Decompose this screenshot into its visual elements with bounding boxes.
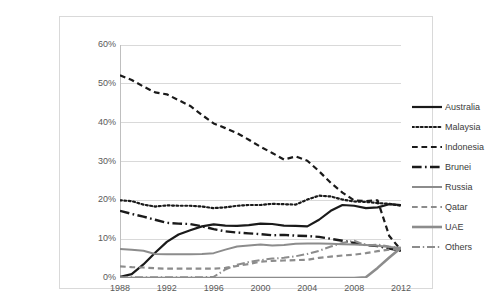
x-axis-tick-labels: 1988199219962000200420082012 <box>120 283 401 297</box>
legend-item-qatar[interactable]: Qatar <box>412 197 489 217</box>
y-axis-tick-label: 60% <box>86 40 116 49</box>
x-axis-tick-label: 2008 <box>336 283 372 294</box>
series-line-uae <box>120 248 401 278</box>
x-axis-tick-label: 2004 <box>289 283 325 294</box>
legend-swatch-brunei-icon <box>412 161 442 173</box>
legend-label: UAE <box>445 222 464 232</box>
legend-label: Russia <box>445 182 473 192</box>
legend-label: Brunei <box>445 162 471 172</box>
x-axis-tick-label: 1988 <box>102 283 138 294</box>
x-axis-tick-label: 1996 <box>196 283 232 294</box>
legend-item-malaysia[interactable]: Malaysia <box>412 117 489 137</box>
y-axis-tick-label: 40% <box>86 118 116 127</box>
y-axis-tick-label: 0% <box>86 273 116 282</box>
legend-item-australia[interactable]: Australia <box>412 97 489 117</box>
y-axis-tick-labels: 0%10%20%30%40%50%60% <box>82 45 116 278</box>
legend-swatch-malaysia-icon <box>412 121 442 133</box>
legend-label: Qatar <box>445 202 468 212</box>
legend-swatch-others-icon <box>412 241 442 253</box>
y-axis-tick-label: 20% <box>86 195 116 204</box>
series-line-qatar <box>120 248 401 268</box>
legend-item-uae[interactable]: UAE <box>412 217 489 237</box>
legend-label: Australia <box>445 102 480 112</box>
legend-swatch-australia-icon <box>412 101 442 113</box>
chart-frame: 0%10%20%30%40%50%60% 1988199219962000200… <box>59 16 433 289</box>
x-axis-tick-label: 2012 <box>383 283 419 294</box>
legend-item-indonesia[interactable]: Indonesia <box>412 137 489 157</box>
y-axis-tick-label: 50% <box>86 79 116 88</box>
legend-label: Others <box>445 242 472 252</box>
plot-area <box>120 45 401 278</box>
legend-swatch-russia-icon <box>412 181 442 193</box>
legend-swatch-qatar-icon <box>412 201 442 213</box>
legend-swatch-uae-icon <box>412 221 442 233</box>
legend-label: Malaysia <box>445 122 481 132</box>
legend-item-others[interactable]: Others <box>412 237 489 257</box>
legend-item-brunei[interactable]: Brunei <box>412 157 489 177</box>
legend-label: Indonesia <box>445 142 484 152</box>
series-line-australia <box>120 204 401 277</box>
y-axis-tick-label: 30% <box>86 157 116 166</box>
legend-item-russia[interactable]: Russia <box>412 177 489 197</box>
x-axis-tick-label: 1992 <box>149 283 185 294</box>
legend-swatch-indonesia-icon <box>412 141 442 153</box>
y-axis-tick-label: 10% <box>86 234 116 243</box>
chart-legend: AustraliaMalaysiaIndonesiaBruneiRussiaQa… <box>412 97 489 257</box>
x-axis-tick-label: 2000 <box>243 283 279 294</box>
chart-plot-svg <box>120 45 401 278</box>
